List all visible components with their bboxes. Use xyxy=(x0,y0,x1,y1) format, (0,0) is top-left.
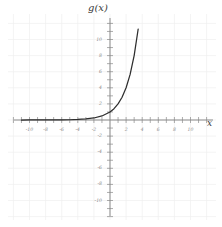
y-tick-label: -8 xyxy=(84,181,102,186)
y-tick-label: -2 xyxy=(84,133,102,138)
y-tick-label: -4 xyxy=(84,149,102,154)
x-tick-label: -2 xyxy=(85,127,103,132)
plot-area xyxy=(0,0,222,227)
gridlines xyxy=(8,14,216,220)
y-tick-label: 8 xyxy=(84,53,102,58)
y-tick-label: -10 xyxy=(84,198,102,203)
x-tick-label: 10 xyxy=(182,127,200,132)
data-curve xyxy=(21,29,138,120)
y-tick-label: 6 xyxy=(84,69,102,74)
y-tick-label: 2 xyxy=(84,101,102,106)
y-tick-label: 4 xyxy=(84,85,102,90)
y-tick-label: 10 xyxy=(84,37,102,42)
y-tick-label: -6 xyxy=(84,165,102,170)
chart-container: g(x) x -10-8-6-4-2246810 -10-8-6-4-22468… xyxy=(0,0,222,227)
